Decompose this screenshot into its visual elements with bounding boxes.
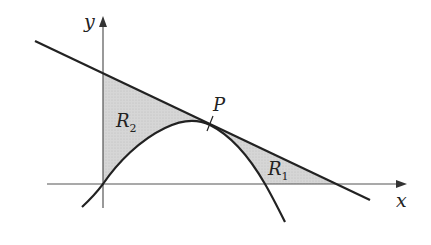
point-p-label: P (213, 96, 225, 114)
diagram-canvas (0, 0, 431, 245)
region-r2-label: R2 (116, 112, 137, 134)
region-r1-label: R1 (268, 160, 289, 182)
x-axis-arrow-icon (396, 180, 407, 188)
region-r2-main: R (116, 110, 130, 131)
y-axis-arrow-icon (99, 16, 107, 27)
y-axis-label: y (84, 12, 95, 31)
region-r2-sub: 2 (130, 122, 137, 135)
x-axis-label: x (396, 191, 407, 210)
tangent-line (35, 41, 370, 200)
region-r1-sub: 1 (282, 170, 289, 183)
region-r1-main: R (268, 158, 282, 179)
